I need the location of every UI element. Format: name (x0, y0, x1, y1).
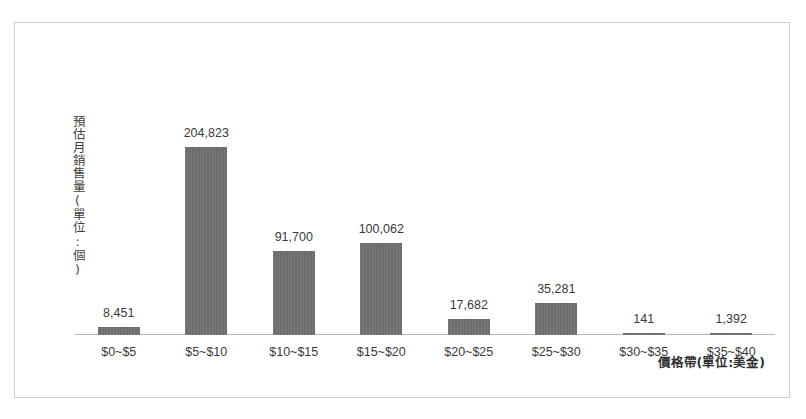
x-axis-title: 價格帶(單位:美金) (658, 352, 765, 371)
bar-group: 204,823$5~$10 (163, 63, 251, 335)
chart-frame: 預估月銷售量(單位:個) 8,451$0~$5204,823$5~$1091,7… (14, 22, 790, 398)
x-axis-tick-label: $25~$30 (532, 345, 581, 359)
x-axis-tick-label: $0~$5 (101, 345, 136, 359)
bar-value-label: 100,062 (359, 222, 404, 236)
bar-value-label: 91,700 (275, 230, 313, 244)
bar[interactable] (710, 333, 752, 336)
bar-value-label: 1,392 (716, 312, 747, 326)
bar-value-label: 35,281 (537, 282, 575, 296)
bar[interactable] (273, 251, 315, 335)
bar-value-label: 204,823 (184, 126, 229, 140)
plot-area: 8,451$0~$5204,823$5~$1091,700$10~$15100,… (75, 63, 775, 335)
bar-value-label: 17,682 (450, 298, 488, 312)
bar-group: 100,062$15~$20 (338, 63, 426, 335)
bar[interactable] (623, 333, 665, 336)
bar-value-label: 141 (633, 312, 654, 326)
bar-group: 141$30~$35 (600, 63, 688, 335)
x-axis-tick-label: $20~$25 (444, 345, 493, 359)
x-axis-tick-label: $10~$15 (269, 345, 318, 359)
bar[interactable] (185, 147, 227, 335)
bar-group: 8,451$0~$5 (75, 63, 163, 335)
bar[interactable] (98, 327, 140, 335)
bar-group: 35,281$25~$30 (513, 63, 601, 335)
bar[interactable] (360, 243, 402, 335)
bar-group: 91,700$10~$15 (250, 63, 338, 335)
bar[interactable] (448, 319, 490, 335)
bar-value-label: 8,451 (103, 306, 134, 320)
x-axis-tick-label: $5~$10 (185, 345, 227, 359)
bar-group: 1,392$35~$40 (688, 63, 776, 335)
bar-group: 17,682$20~$25 (425, 63, 513, 335)
bar[interactable] (535, 303, 577, 335)
x-axis-tick-label: $15~$20 (357, 345, 406, 359)
